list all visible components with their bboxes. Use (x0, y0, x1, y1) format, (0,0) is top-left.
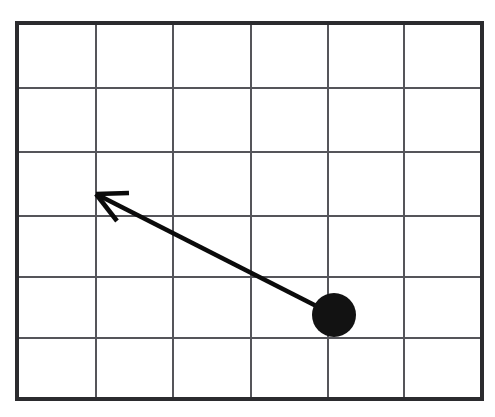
black-ball (312, 293, 356, 337)
grid-diagram (0, 0, 495, 417)
velocity-arrowhead-upper-barb (96, 193, 129, 194)
figure-container (0, 0, 495, 417)
canvas-background (0, 0, 495, 417)
